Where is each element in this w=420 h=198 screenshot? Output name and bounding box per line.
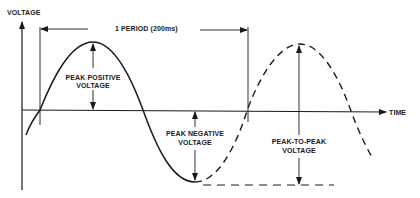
- peak-to-peak-label-2: VOLTAGE: [282, 147, 316, 154]
- period-label: 1 PERIOD (200ms): [115, 25, 178, 33]
- peak-to-peak-label-1: PEAK-TO-PEAK: [272, 138, 326, 145]
- peak-negative-label-2: VOLTAGE: [178, 139, 212, 146]
- peak-positive-label-2: VOLTAGE: [76, 82, 110, 89]
- peak-negative-label-1: PEAK NEGATIVE: [166, 130, 224, 137]
- time-axis: [22, 110, 386, 112]
- voltage-axis-label: VOLTAGE: [7, 9, 41, 16]
- sine-wave-diagram: VOLTAGE TIME 1 PERIOD (200ms) PEAK POSIT…: [0, 0, 420, 198]
- diagram-canvas: VOLTAGE TIME 1 PERIOD (200ms) PEAK POSIT…: [0, 0, 420, 198]
- solid-sine-wave: [26, 42, 195, 182]
- peak-positive-label-1: PEAK POSITIVE: [66, 74, 121, 81]
- dashed-sine-wave: [195, 44, 372, 182]
- time-axis-label: TIME: [389, 109, 406, 116]
